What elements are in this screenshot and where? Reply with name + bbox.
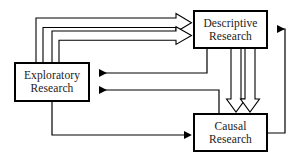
node-causal-research-line1: Causal [215, 120, 247, 133]
edge-exploratory-to-causal [52, 102, 184, 135]
node-exploratory-research-line2: Research [31, 82, 74, 95]
node-descriptive-research[interactable]: Descriptive Research [193, 10, 268, 49]
edge-descriptive-to-exploratory [99, 49, 207, 73]
node-exploratory-research[interactable]: Exploratory Research [14, 62, 90, 102]
edge-exploratory-to-descriptive-inner [52, 27, 192, 62]
edge-causal-to-exploratory [99, 90, 219, 113]
node-descriptive-research-line2: Research [209, 30, 252, 43]
research-flow-diagram: Descriptive Research Exploratory Researc… [0, 0, 297, 162]
node-exploratory-research-line1: Exploratory [24, 69, 80, 82]
edge-causal-to-descriptive [268, 29, 285, 133]
edge-descriptive-to-causal-right [241, 49, 260, 112]
node-causal-research[interactable]: Causal Research [193, 113, 268, 152]
node-descriptive-research-line1: Descriptive [203, 17, 257, 30]
node-causal-research-line2: Research [209, 133, 252, 146]
